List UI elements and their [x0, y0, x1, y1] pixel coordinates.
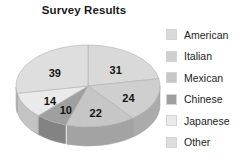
- legend-label: Italian: [184, 50, 212, 62]
- pie-top-slices: [16, 45, 160, 127]
- legend-color-swatch: [166, 29, 177, 40]
- legend-label: American: [184, 29, 228, 41]
- pie-chart-figure: Survey Results 312422101439 AmericanItal…: [0, 0, 250, 165]
- pie-svg: [8, 26, 168, 156]
- chart-legend: AmericanItalianMexicanChineseJapaneseOth…: [166, 24, 250, 153]
- chart-title: Survey Results: [0, 4, 168, 16]
- legend-item[interactable]: Other: [166, 132, 250, 154]
- legend-color-swatch: [166, 51, 177, 62]
- legend-color-swatch: [166, 115, 177, 126]
- pie-slice[interactable]: [16, 45, 88, 93]
- legend-item[interactable]: Chinese: [166, 89, 250, 111]
- legend-label: Chinese: [184, 93, 223, 105]
- legend-label: Japanese: [184, 115, 230, 127]
- legend-item[interactable]: American: [166, 24, 250, 46]
- legend-label: Mexican: [184, 72, 223, 84]
- legend-color-swatch: [166, 137, 177, 148]
- legend-item[interactable]: Mexican: [166, 67, 250, 89]
- legend-color-swatch: [166, 72, 177, 83]
- legend-color-swatch: [166, 94, 177, 105]
- pie-plot-area: 312422101439: [8, 26, 168, 156]
- legend-label: Other: [184, 136, 210, 148]
- legend-item[interactable]: Italian: [166, 46, 250, 68]
- legend-item[interactable]: Japanese: [166, 110, 250, 132]
